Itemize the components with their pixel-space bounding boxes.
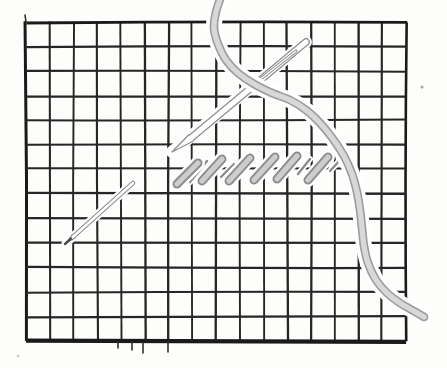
grid-tick — [25, 15, 26, 22]
tent-stitch — [177, 163, 198, 184]
grid-border-horizontal — [26, 341, 406, 342]
grid-line-horizontal — [26, 316, 406, 317]
stitch-illustration — [0, 0, 447, 368]
grid-line-horizontal — [26, 218, 407, 219]
grid-line-horizontal — [26, 292, 406, 293]
grid-line-horizontal — [25, 267, 406, 268]
grid-line-horizontal — [26, 144, 406, 145]
grid-line-horizontal — [25, 71, 406, 72]
speck — [420, 85, 423, 88]
tent-stitch — [229, 158, 250, 181]
grid-line-horizontal — [27, 193, 406, 194]
speck — [17, 355, 20, 358]
grid-border-vertical — [406, 22, 407, 341]
illustration-stage — [0, 0, 447, 368]
